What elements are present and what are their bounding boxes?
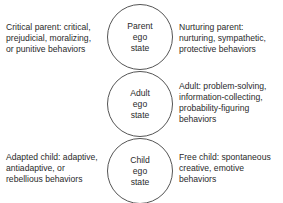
- desc-line: antiadaptive, or: [6, 163, 98, 174]
- desc-line: behaviors: [179, 114, 266, 125]
- desc-line: creative, emotive: [179, 163, 271, 174]
- circle-label: state: [131, 177, 150, 188]
- desc-line: prejudicial, moralizing,: [6, 33, 91, 44]
- circle-label: Child: [130, 155, 150, 166]
- critical-parent-description: Critical parent: critical, prejudicial, …: [6, 22, 91, 55]
- circle-label: state: [131, 110, 150, 121]
- circle-label: ego: [133, 32, 147, 43]
- parent-ego-state-circle: Parent ego state: [107, 4, 173, 70]
- child-ego-state-circle: Child ego state: [107, 138, 173, 203]
- free-child-description: Free child: spontaneous creative, emotiv…: [179, 152, 271, 185]
- desc-line: Critical parent: critical,: [6, 22, 91, 33]
- circle-label: Adult: [130, 88, 150, 99]
- desc-line: Free child: spontaneous: [179, 152, 271, 163]
- desc-line: nurturing, sympathetic,: [179, 33, 266, 44]
- nurturing-parent-description: Nurturing parent: nurturing, sympathetic…: [179, 22, 266, 55]
- circle-label: state: [131, 43, 150, 54]
- circle-label: Parent: [127, 21, 152, 32]
- desc-line: Nurturing parent:: [179, 22, 266, 33]
- desc-line: Adapted child: adaptive,: [6, 152, 98, 163]
- circle-label: ego: [133, 166, 147, 177]
- adult-description: Adult: problem-solving, information-coll…: [179, 81, 266, 125]
- desc-line: rebellious behaviors: [6, 174, 98, 185]
- adult-ego-state-circle: Adult ego state: [107, 71, 173, 137]
- circle-label: ego: [133, 99, 147, 110]
- desc-line: protective behaviors: [179, 44, 266, 55]
- desc-line: information-collecting,: [179, 92, 266, 103]
- desc-line: or punitive behaviors: [6, 44, 91, 55]
- desc-line: probability-figuring: [179, 103, 266, 114]
- desc-line: Adult: problem-solving,: [179, 81, 266, 92]
- adapted-child-description: Adapted child: adaptive, antiadaptive, o…: [6, 152, 98, 185]
- desc-line: behaviors: [179, 174, 271, 185]
